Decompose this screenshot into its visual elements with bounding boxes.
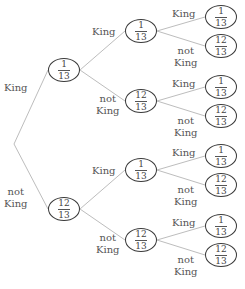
probability-node: 1213 [205,243,237,267]
numerator: 1 [136,160,146,169]
branch-label-line: King [92,165,116,177]
denominator: 13 [213,257,228,266]
tree-edge [157,170,205,185]
numerator: 12 [56,199,71,208]
branch-label-line: not [174,115,198,127]
denominator: 13 [56,72,71,81]
branch-label-line: not [4,186,28,198]
probability-node: 113 [205,214,237,238]
probability-node: 1213 [125,228,157,252]
probability-node: 1213 [125,89,157,113]
numerator: 1 [216,7,226,16]
branch-label: notKing [174,254,198,278]
branch-label: notKing [4,186,28,210]
probability-node: 113 [205,144,237,168]
denominator: 13 [56,211,71,220]
branch-label-line: King [174,57,198,69]
branch-label-line: not [96,232,120,244]
branch-label-line: King [172,217,196,229]
branch-label: King [172,78,196,90]
branch-label-line: not [174,184,198,196]
denominator: 13 [213,48,228,57]
numerator: 1 [136,21,146,30]
branch-label-line: not [174,254,198,266]
numerator: 12 [133,230,148,239]
branch-label-line: not [174,45,198,57]
branch-label: King [172,147,196,159]
denominator: 13 [133,103,148,112]
probability-node: 113 [205,5,237,29]
tree-edge [157,101,205,116]
branch-label: King [4,82,28,94]
denominator: 13 [213,89,228,98]
branch-label-line: King [96,105,120,117]
branch-label-line: King [4,198,28,210]
numerator: 12 [133,91,148,100]
numerator: 1 [216,77,226,86]
numerator: 1 [216,216,226,225]
probability-node: 113 [125,19,157,43]
probability-node: 113 [205,75,237,99]
denominator: 13 [213,158,228,167]
denominator: 13 [213,187,228,196]
probability-node: 1213 [205,34,237,58]
numerator: 12 [213,175,228,184]
branch-label: notKing [174,45,198,69]
probability-node: 1213 [205,104,237,128]
probability-node: 113 [125,158,157,182]
numerator: 12 [213,106,228,115]
denominator: 13 [133,242,148,251]
branch-label-line: King [4,82,28,94]
denominator: 13 [213,228,228,237]
branch-label: notKing [96,232,120,256]
tree-edge [157,240,205,255]
numerator: 1 [216,146,226,155]
branch-label: notKing [96,93,120,117]
denominator: 13 [133,33,148,42]
branch-label-line: King [174,127,198,139]
branch-label-line: King [174,266,198,278]
numerator: 12 [213,36,228,45]
branch-label-line: King [172,78,196,90]
branch-label: King [172,217,196,229]
numerator: 12 [213,245,228,254]
branch-label-line: not [96,93,120,105]
branch-label: notKing [174,115,198,139]
branch-label-line: King [174,196,198,208]
denominator: 13 [213,19,228,28]
denominator: 13 [133,172,148,181]
branch-label: King [92,26,116,38]
branch-label: King [172,8,196,20]
tree-edge [157,31,205,46]
branch-label-line: King [92,26,116,38]
probability-node: 113 [48,58,80,82]
branch-label: King [92,165,116,177]
branch-label: notKing [174,184,198,208]
branch-label-line: King [172,147,196,159]
branch-label-line: King [172,8,196,20]
branch-label-line: King [96,244,120,256]
denominator: 13 [213,118,228,127]
numerator: 1 [59,60,69,69]
probability-node: 1213 [205,173,237,197]
probability-node: 1213 [48,197,80,221]
